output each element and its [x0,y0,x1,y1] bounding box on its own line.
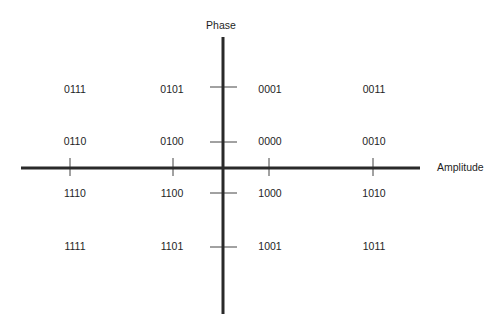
constellation-point-0100: 0100 [160,135,184,147]
constellation-point-1001: 1001 [258,240,282,252]
phase-axis-label: Phase [206,19,236,31]
constellation-point-1101: 1101 [161,240,184,252]
constellation-point-0011: 0011 [363,83,386,95]
constellation-point-1111: 1111 [64,240,85,252]
constellation-point-0010: 0010 [362,135,386,147]
constellation-point-0000: 0000 [258,135,282,147]
constellation-point-0111: 0111 [64,83,86,95]
constellation-point-0101: 0101 [160,83,184,95]
constellation-point-0110: 0110 [64,135,87,147]
constellation-point-0001: 0001 [258,83,282,95]
amplitude-axis-label: Amplitude [437,161,484,173]
constellation-point-1010: 1010 [362,187,386,199]
constellation-point-1000: 1000 [258,187,282,199]
constellation-diagram: Phase Amplitude 011101010001001101100100… [0,0,502,333]
constellation-point-1011: 1011 [363,240,386,252]
constellation-point-1110: 1110 [64,187,86,199]
constellation-point-1100: 1100 [161,187,184,199]
